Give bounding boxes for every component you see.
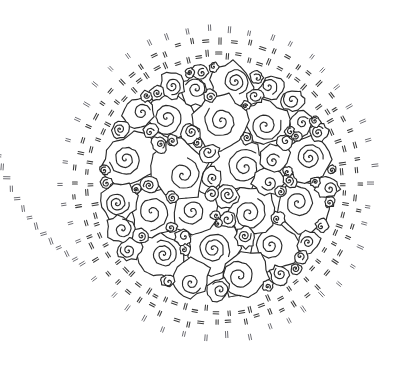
spiral-blob [132, 184, 141, 193]
spiral-blob [310, 177, 320, 187]
spiral-blob [325, 197, 335, 208]
ink-drawing [0, 0, 412, 365]
spiral-blob [262, 280, 273, 291]
spiral-blob [283, 167, 293, 177]
spiral-blob [200, 145, 220, 163]
spiral-blob [275, 186, 286, 197]
spiral-blob [168, 134, 178, 146]
spiral-blob [271, 211, 285, 225]
spiral-blob [166, 222, 178, 232]
artboard: Spiral Cluster pen-and-ink drawing dense… [0, 0, 412, 365]
